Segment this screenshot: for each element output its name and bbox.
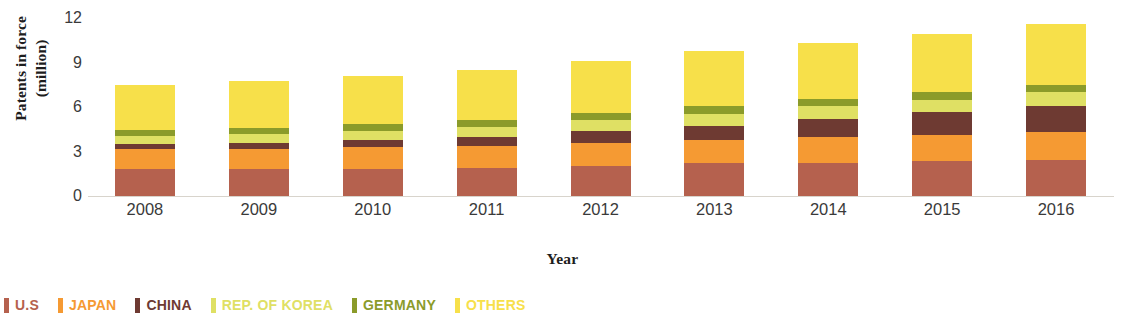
legend-item-germany[interactable]: GERMANY [352,297,436,313]
segment-others-2013[interactable] [684,51,744,106]
segment-china-2016[interactable] [1026,106,1086,133]
segment-china-2014[interactable] [798,119,858,138]
stacked-bar-chart: Patents in force (million) 036912 Year U… [0,0,1125,332]
x-tick-2016: 2016 [1038,200,1075,219]
segment-japan-2013[interactable] [684,140,744,164]
legend-swatch-icon [58,298,63,313]
segment-germany-2013[interactable] [684,106,744,113]
legend-item-u-s[interactable]: U.S [4,297,39,313]
segment-japan-2014[interactable] [798,137,858,162]
legend-swatch-icon [455,298,460,313]
y-axis-tick-labels: 036912 [48,18,82,196]
segment-germany-2010[interactable] [343,124,403,131]
x-axis-title: Year [0,250,1125,268]
x-tick-2014: 2014 [810,200,847,219]
y-tick-3: 3 [73,143,82,161]
legend-label: REP. OF KOREA [222,297,333,313]
legend-swatch-icon [135,298,140,313]
legend-label: CHINA [146,297,191,313]
x-tick-2015: 2015 [924,200,961,219]
x-tick-2008: 2008 [127,200,164,219]
legend-label: GERMANY [363,297,436,313]
segment-germany-2012[interactable] [571,113,631,120]
segment-others-2010[interactable] [343,76,403,124]
legend-item-china[interactable]: CHINA [135,297,191,313]
segment-others-2012[interactable] [571,61,631,113]
segment-rep-of-korea-2016[interactable] [1026,92,1086,105]
x-axis-line [88,196,1114,197]
segment-china-2013[interactable] [684,126,744,140]
bar-2009[interactable] [229,81,289,196]
segment-rep-of-korea-2012[interactable] [571,120,631,131]
segment-china-2015[interactable] [912,112,972,135]
segment-u-s-2015[interactable] [912,161,972,196]
bar-2012[interactable] [571,61,631,196]
segment-germany-2015[interactable] [912,92,972,99]
y-tick-6: 6 [73,98,82,116]
segment-u-s-2012[interactable] [571,166,631,196]
segment-rep-of-korea-2010[interactable] [343,131,403,141]
segment-japan-2011[interactable] [457,146,517,168]
legend-label: OTHERS [466,297,526,313]
x-tick-2009: 2009 [240,200,277,219]
segment-germany-2014[interactable] [798,99,858,106]
legend-item-rep-of-korea[interactable]: REP. OF KOREA [211,297,333,313]
segment-u-s-2014[interactable] [798,163,858,196]
segment-japan-2008[interactable] [115,149,175,168]
segment-germany-2011[interactable] [457,120,517,127]
y-tick-12: 12 [64,9,82,27]
bar-2010[interactable] [343,76,403,196]
x-tick-2010: 2010 [354,200,391,219]
legend-swatch-icon [211,298,216,313]
x-tick-2012: 2012 [582,200,619,219]
bar-2013[interactable] [684,51,744,196]
legend-swatch-icon [4,298,9,313]
legend-item-japan[interactable]: JAPAN [58,297,116,313]
segment-rep-of-korea-2011[interactable] [457,127,517,137]
legend-item-others[interactable]: OTHERS [455,297,526,313]
bar-2016[interactable] [1026,24,1086,196]
x-tick-2011: 2011 [469,200,504,219]
x-tick-2013: 2013 [696,200,733,219]
segment-u-s-2016[interactable] [1026,160,1086,196]
segment-u-s-2009[interactable] [229,169,289,196]
y-tick-0: 0 [73,187,82,205]
segment-u-s-2008[interactable] [115,169,175,196]
segment-japan-2012[interactable] [571,143,631,166]
segment-japan-2009[interactable] [229,149,289,169]
segment-others-2015[interactable] [912,34,972,92]
y-axis-title: Patents in force (million) [11,0,52,153]
segment-u-s-2013[interactable] [684,163,744,196]
bar-2008[interactable] [115,85,175,196]
bar-2011[interactable] [457,70,517,196]
segment-japan-2015[interactable] [912,135,972,161]
segment-rep-of-korea-2009[interactable] [229,134,289,143]
segment-rep-of-korea-2008[interactable] [115,136,175,144]
legend-label: U.S [15,297,39,313]
segment-rep-of-korea-2013[interactable] [684,114,744,126]
segment-others-2008[interactable] [115,85,175,130]
segment-u-s-2010[interactable] [343,169,403,196]
segment-others-2009[interactable] [229,81,289,128]
plot-area [88,18,1113,196]
segment-rep-of-korea-2015[interactable] [912,100,972,113]
y-tick-9: 9 [73,54,82,72]
segment-rep-of-korea-2014[interactable] [798,106,858,119]
segment-others-2016[interactable] [1026,24,1086,85]
segment-japan-2010[interactable] [343,147,403,169]
chart-legend: U.SJAPANCHINAREP. OF KOREAGERMANYOTHERS [4,297,545,313]
segment-china-2012[interactable] [571,131,631,142]
segment-others-2011[interactable] [457,70,517,120]
segment-others-2014[interactable] [798,43,858,99]
segment-china-2010[interactable] [343,140,403,147]
segment-germany-2016[interactable] [1026,85,1086,92]
bar-2014[interactable] [798,43,858,196]
segment-japan-2016[interactable] [1026,132,1086,159]
segment-u-s-2011[interactable] [457,168,517,196]
bar-2015[interactable] [912,34,972,196]
legend-swatch-icon [352,298,357,313]
segment-china-2011[interactable] [457,137,517,145]
legend-label: JAPAN [69,297,116,313]
